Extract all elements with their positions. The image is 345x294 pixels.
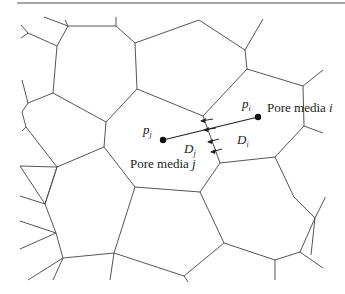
pore-media-j-label: Pore media j (130, 157, 196, 170)
pore-node-i (255, 114, 261, 120)
pressure-label-j: pj (143, 123, 152, 139)
pressure-label-i: pi (242, 97, 251, 113)
pore-media-i-label: Pore media i (267, 101, 333, 114)
pore-network-diagram (0, 0, 345, 294)
distance-label-i: Di (237, 133, 249, 149)
flux-arrows (200, 118, 222, 154)
pore-node-j (160, 137, 166, 143)
voronoi-cell-edges (20, 17, 325, 282)
